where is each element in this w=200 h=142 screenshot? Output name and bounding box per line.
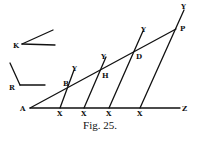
label-b: B xyxy=(63,79,69,88)
label-k: K xyxy=(13,41,20,50)
label-z: Z xyxy=(182,104,187,113)
label-y-4: Y xyxy=(180,2,187,11)
angle-k-upper-arm xyxy=(22,30,53,44)
figure-caption: Fig. 25. xyxy=(83,119,117,131)
parallel-line-3 xyxy=(109,31,143,108)
label-y-2: Y xyxy=(100,52,107,61)
angle-k: K xyxy=(13,30,55,50)
angle-r: R xyxy=(9,63,45,92)
label-d: D xyxy=(136,52,142,61)
parallel-line-4 xyxy=(140,10,184,108)
label-r: R xyxy=(9,83,15,92)
label-x-1: X xyxy=(57,109,63,118)
label-y-3: Y xyxy=(140,25,147,34)
parallel-line-1 xyxy=(60,70,74,108)
transversal-ap xyxy=(30,29,176,108)
parallel-line-2 xyxy=(84,57,106,108)
label-x-2: X xyxy=(81,109,87,118)
angle-r-upper-arm xyxy=(10,63,20,85)
label-x-3: X xyxy=(106,109,112,118)
label-y-1: Y xyxy=(71,64,78,73)
label-p: P xyxy=(180,24,186,33)
angle-k-lower-arm xyxy=(22,44,55,45)
figure-25-diagram: K R A Z P D H B Y Y Y Y X X X X Fig. 25. xyxy=(0,0,200,142)
label-h: H xyxy=(102,71,109,80)
label-a: A xyxy=(19,104,26,113)
label-x-4: X xyxy=(137,109,143,118)
